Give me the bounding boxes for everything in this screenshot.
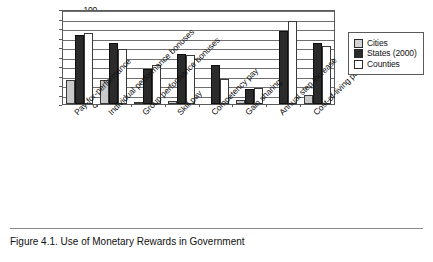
x-axis-category-labels: Pay-for-performanceIndividual performanc… xyxy=(62,106,335,211)
legend-swatch-cities xyxy=(354,39,363,48)
figure-container: 0102030405060708090100 Pay-for-performan… xyxy=(0,0,433,262)
chart-plot-wrapper: 0102030405060708090100 Pay-for-performan… xyxy=(0,0,433,215)
caption-divider xyxy=(10,228,423,229)
legend-swatch-states xyxy=(354,49,363,58)
legend-label-counties: Counties xyxy=(367,60,400,69)
figure-caption: Figure 4.1. Use of Monetary Rewards in G… xyxy=(10,236,245,248)
legend-item-states: States (2000) xyxy=(354,49,417,58)
legend-item-counties: Counties xyxy=(354,60,417,69)
chart-legend: Cities States (2000) Counties xyxy=(348,32,424,75)
legend-item-cities: Cities xyxy=(354,39,417,48)
bar-cities xyxy=(304,95,313,104)
bar-states xyxy=(211,65,220,104)
bar-states xyxy=(279,31,288,104)
bar-cities xyxy=(134,102,143,104)
legend-swatch-counties xyxy=(354,60,363,69)
legend-label-states: States (2000) xyxy=(367,49,417,58)
legend-label-cities: Cities xyxy=(367,39,388,48)
bar-states xyxy=(75,35,84,104)
bar-cities xyxy=(66,80,75,104)
bar-cities xyxy=(236,100,245,104)
bar-cities xyxy=(168,101,177,104)
